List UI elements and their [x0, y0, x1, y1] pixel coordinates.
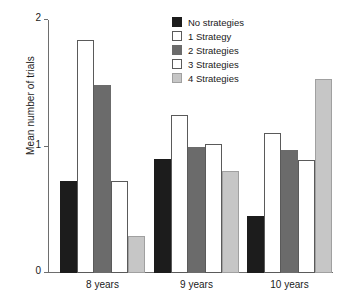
legend-label: No strategies: [188, 17, 244, 28]
legend-label: 3 Strategies: [188, 59, 239, 70]
legend-swatch-icon: [172, 17, 182, 27]
y-tick-label: 2: [35, 12, 41, 23]
bar: [60, 181, 77, 273]
legend-label: 1 Strategy: [188, 31, 231, 42]
bar-group: [60, 20, 145, 273]
bar: [315, 79, 332, 273]
legend-item[interactable]: 2 Strategies: [172, 44, 244, 56]
legend-swatch-icon: [172, 59, 182, 69]
legend-swatch-icon: [172, 73, 182, 83]
legend-swatch-icon: [172, 31, 182, 41]
bar: [94, 85, 111, 273]
tick-mark: [44, 19, 48, 20]
bar: [154, 159, 171, 273]
y-axis-title: Mean number of trials: [25, 21, 36, 191]
bar: [128, 236, 145, 273]
y-tick-label: 1: [35, 139, 41, 150]
bar: [171, 115, 188, 273]
x-axis-label: 10 years: [247, 279, 332, 290]
y-axis-tick: 1: [32, 146, 48, 147]
bar: [298, 160, 315, 273]
bar: [77, 40, 94, 273]
x-axis-label: 9 years: [154, 279, 239, 290]
legend-item[interactable]: 4 Strategies: [172, 72, 244, 84]
legend-swatch-icon: [172, 45, 182, 55]
bar: [247, 216, 264, 273]
bar: [264, 133, 281, 273]
y-tick-label: 0: [35, 265, 41, 276]
bar: [281, 150, 298, 273]
legend-label: 4 Strategies: [188, 73, 239, 84]
legend: No strategies1 Strategy2 Strategies3 Str…: [172, 16, 244, 86]
legend-item[interactable]: No strategies: [172, 16, 244, 28]
x-axis-label: 8 years: [60, 279, 145, 290]
y-axis-tick: 2: [32, 19, 48, 20]
tick-mark: [44, 272, 48, 273]
legend-item[interactable]: 3 Strategies: [172, 58, 244, 70]
bar-chart: Mean number of trials 012 8 years9 years…: [0, 0, 339, 306]
bar: [222, 171, 239, 273]
tick-mark: [44, 146, 48, 147]
bar: [188, 147, 205, 274]
y-axis-tick: 0: [32, 272, 48, 273]
bar: [111, 181, 128, 273]
legend-item[interactable]: 1 Strategy: [172, 30, 244, 42]
y-axis-line: [48, 20, 49, 273]
bar-group: [247, 20, 332, 273]
legend-label: 2 Strategies: [188, 45, 239, 56]
bar: [205, 144, 222, 273]
